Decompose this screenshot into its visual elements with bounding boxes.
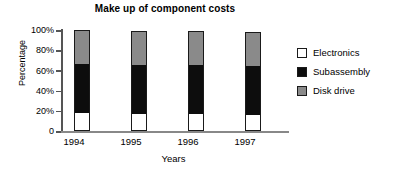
legend-label-electronics: Electronics (313, 47, 359, 58)
x-tick-label-1995: 1995 (108, 136, 154, 147)
bar-segment-electronics (74, 113, 90, 131)
y-tick-label-100: 100% (0, 26, 54, 35)
bar-segment-subassembly (245, 66, 261, 114)
stacked-bar-chart: Make up of component costs Percentage 0 … (0, 0, 401, 174)
bar-segment-subassembly (188, 65, 204, 113)
legend-label-disk-drive: Disk drive (313, 85, 355, 96)
bar-segment-subassembly (131, 65, 147, 113)
x-axis-line (61, 131, 289, 133)
legend-swatch-subassembly-icon (297, 67, 307, 77)
chart-legend: Electronics Subassembly Disk drive (297, 43, 370, 100)
bar-1995[interactable] (131, 31, 147, 131)
x-axis-title: Years (62, 153, 285, 164)
y-tick-label-60: 60% (0, 67, 54, 76)
plot-area (62, 30, 285, 131)
legend-item-subassembly[interactable]: Subassembly (297, 62, 370, 81)
y-axis-tick-labels: 0 20% 40% 60% 80% 100% (0, 0, 54, 174)
x-tick-label-1996: 1996 (165, 136, 211, 147)
bar-segment-electronics (131, 114, 147, 131)
bar-segment-electronics (188, 114, 204, 131)
bar-segment-subassembly (74, 64, 90, 112)
y-tick-label-20: 20% (0, 107, 54, 116)
bar-segment-electronics (245, 115, 261, 131)
bar-segment-disk-drive (188, 31, 204, 65)
y-tick-label-80: 80% (0, 46, 54, 55)
legend-swatch-electronics-icon (297, 48, 307, 58)
x-tick-label-1994: 1994 (51, 136, 97, 147)
x-tick-label-1997: 1997 (222, 136, 268, 147)
y-tick-label-0: 0 (0, 127, 54, 136)
legend-label-subassembly: Subassembly (313, 66, 370, 77)
bar-1996[interactable] (188, 31, 204, 131)
bar-segment-disk-drive (245, 32, 261, 66)
bar-1994[interactable] (74, 30, 90, 131)
bar-1997[interactable] (245, 32, 261, 131)
bar-segment-disk-drive (74, 30, 90, 64)
bar-segment-disk-drive (131, 31, 147, 65)
legend-swatch-disk-drive-icon (297, 86, 307, 96)
y-tick-label-40: 40% (0, 87, 54, 96)
legend-item-electronics[interactable]: Electronics (297, 43, 370, 62)
legend-item-disk-drive[interactable]: Disk drive (297, 81, 370, 100)
